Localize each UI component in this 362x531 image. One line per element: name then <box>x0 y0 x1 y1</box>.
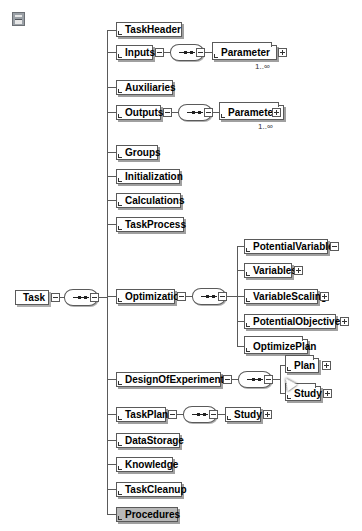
occurrence-label: 1..∞ <box>258 122 273 131</box>
collapse-icon[interactable] <box>204 108 213 117</box>
node-inputs[interactable]: Inputs <box>116 45 153 60</box>
collapse-icon[interactable] <box>90 293 99 302</box>
expand-icon[interactable] <box>294 266 303 275</box>
expand-icon[interactable] <box>263 410 272 419</box>
collapse-icon[interactable] <box>218 292 227 301</box>
collapse-icon[interactable] <box>264 375 273 384</box>
node-calculations[interactable]: Calculations <box>116 193 181 208</box>
node-potentialvariables[interactable]: PotentialVariables <box>244 239 328 254</box>
collapse-icon[interactable] <box>196 48 205 57</box>
node-auxiliaries[interactable]: Auxiliaries <box>116 80 173 95</box>
occurrence-label: 1..∞ <box>255 62 270 71</box>
node-groups[interactable]: Groups <box>116 145 158 160</box>
node-taskplan[interactable]: TaskPlan <box>116 407 166 422</box>
node-plan[interactable]: Plan <box>285 358 319 373</box>
node-designofexperiments[interactable]: DesignOfExperiments <box>116 372 221 387</box>
collapse-icon[interactable] <box>51 293 60 302</box>
node-taskprocess[interactable]: TaskProcess <box>116 217 184 232</box>
collapse-icon[interactable] <box>223 375 232 384</box>
collapse-icon[interactable] <box>163 108 172 117</box>
node-task[interactable]: Task <box>15 290 49 305</box>
node-outputs[interactable]: Outputs <box>116 105 161 120</box>
node-procedures[interactable]: Procedures <box>116 507 178 522</box>
node-study[interactable]: Study <box>225 407 261 422</box>
expand-icon[interactable] <box>272 108 281 117</box>
node-potentialobjectives[interactable]: PotentialObjectives <box>244 314 336 329</box>
node-parameter[interactable]: Parameter <box>212 45 277 60</box>
node-knowledge[interactable]: Knowledge <box>116 457 173 472</box>
expand-icon[interactable] <box>278 48 287 57</box>
expand-icon[interactable] <box>340 317 349 326</box>
expand-icon[interactable] <box>320 292 329 301</box>
node-taskcleanup[interactable]: TaskCleanup <box>116 482 182 497</box>
expand-icon[interactable] <box>322 361 331 370</box>
node-datastorage[interactable]: DataStorage <box>116 433 180 448</box>
collapse-icon[interactable] <box>209 410 218 419</box>
node-variablescaling[interactable]: VariableScaling <box>244 289 318 304</box>
collapse-icon[interactable] <box>177 292 186 301</box>
schema-toggle-icon[interactable] <box>12 12 25 26</box>
node-initialization[interactable]: Initialization <box>116 169 180 184</box>
schema-diagram: Task TaskHeader Inputs Parameter 1..∞ Au… <box>0 0 362 531</box>
collapse-icon[interactable] <box>155 48 164 57</box>
node-taskheader[interactable]: TaskHeader <box>116 22 182 37</box>
node-optimization[interactable]: Optimization <box>116 289 175 304</box>
node-variables[interactable]: Variables <box>244 263 292 278</box>
collapse-icon[interactable] <box>330 242 339 251</box>
collapse-icon[interactable] <box>168 410 177 419</box>
expand-icon[interactable] <box>323 389 332 398</box>
node-optimizeplan[interactable]: OptimizePlan <box>244 339 308 354</box>
